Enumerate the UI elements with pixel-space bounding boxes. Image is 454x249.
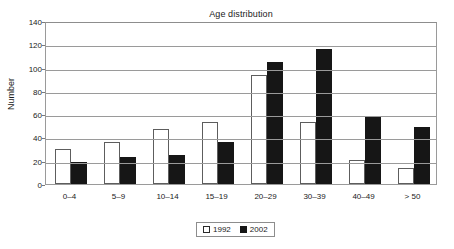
y-tick-label: 0 — [16, 181, 42, 190]
bar-1992-30-39 — [300, 122, 316, 184]
bar-2002-40-49 — [365, 116, 381, 184]
gridline — [46, 70, 436, 71]
bar-1992--50 — [398, 168, 414, 184]
legend-label: 1992 — [213, 226, 231, 234]
x-tick-label: 5–9 — [94, 192, 143, 201]
y-tick-label: 40 — [16, 134, 42, 143]
bar-1992-15-19 — [202, 122, 218, 184]
y-tick-label: 20 — [16, 157, 42, 166]
plot-area — [45, 22, 437, 185]
y-tick-mark — [42, 185, 45, 186]
legend-item-2002: 2002 — [240, 226, 268, 234]
x-tick-label: > 50 — [388, 192, 437, 201]
bar-1992-20-29 — [251, 75, 267, 184]
bar-2002-0-4 — [71, 162, 87, 184]
gridline — [46, 46, 436, 47]
age-distribution-chart: Age distribution Number 0204060801001201… — [0, 0, 454, 249]
x-tick-label: 30–39 — [290, 192, 339, 201]
gridline — [46, 139, 436, 140]
bar-2002-5-9 — [120, 157, 136, 184]
y-tick-label: 80 — [16, 87, 42, 96]
bar-2002--50 — [414, 127, 430, 184]
y-tick-label: 100 — [16, 64, 42, 73]
bar-2002-10-14 — [169, 155, 185, 184]
bar-2002-20-29 — [267, 62, 283, 184]
x-tick-label: 40–49 — [339, 192, 388, 201]
chart-title: Age distribution — [45, 9, 437, 19]
legend-label: 2002 — [250, 226, 268, 234]
y-tick-label: 120 — [16, 41, 42, 50]
x-tick-label: 0–4 — [45, 192, 94, 201]
y-tick-label: 60 — [16, 111, 42, 120]
x-tick-label: 10–14 — [143, 192, 192, 201]
x-axis-labels: 0–45–910–1415–1920–2930–3940–49> 50 — [45, 192, 437, 206]
x-tick-label: 15–19 — [192, 192, 241, 201]
gridline — [46, 93, 436, 94]
y-tick-label: 140 — [16, 18, 42, 27]
black-square-icon — [240, 226, 247, 233]
chart-legend: 19922002 — [196, 222, 275, 237]
bar-1992-10-14 — [153, 129, 169, 184]
bar-1992-0-4 — [55, 149, 71, 184]
gridline — [46, 116, 436, 117]
legend-item-1992: 1992 — [203, 226, 231, 234]
gridline — [46, 163, 436, 164]
white-square-icon — [203, 226, 210, 233]
y-axis-ticks: 020406080100120140 — [12, 22, 42, 185]
x-tick-label: 20–29 — [241, 192, 290, 201]
